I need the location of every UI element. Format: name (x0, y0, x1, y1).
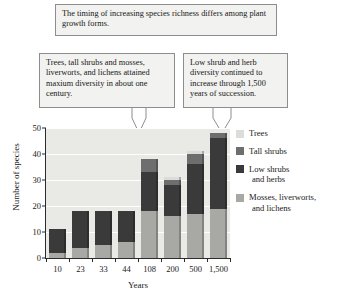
stacked-bar (95, 211, 112, 258)
stacked-bar (49, 229, 66, 258)
legend-item: Mosses, liverworts,and lichens (236, 192, 347, 213)
legend-swatch (236, 194, 244, 202)
x-tick-mark (207, 258, 208, 262)
bar-segment (72, 248, 89, 258)
bar-segment (118, 242, 135, 258)
bar-segment (141, 211, 158, 258)
bar-segment (187, 164, 204, 213)
legend-label: Tall shrubs (249, 146, 287, 156)
bar-segment (95, 245, 112, 258)
bar-slot (184, 128, 207, 258)
y-tick-label: 50 (17, 124, 41, 133)
x-tick-label: 1,500 (207, 264, 230, 278)
x-tick-mark (161, 258, 162, 262)
bar-segment (210, 138, 227, 208)
bar-segment (141, 172, 158, 211)
bar-slot (207, 128, 230, 258)
y-axis-ticks: 01020304050 (20, 120, 46, 266)
legend-item: Tall shrubs (236, 146, 347, 156)
stacked-bar (164, 177, 181, 258)
callout-left-text: Trees, tall shrubs and mosses, liverwort… (46, 58, 168, 100)
y-tick-label: 20 (17, 202, 41, 211)
bar-slot (46, 128, 69, 258)
y-tick-label: 10 (17, 228, 41, 237)
bar-slot (115, 128, 138, 258)
callout-right: Low shrub and herb diversity continued t… (183, 53, 288, 108)
stacked-bar (141, 159, 158, 258)
bar-segment (164, 216, 181, 258)
legend-label-line2: and herbs (249, 174, 289, 184)
legend-swatch (236, 147, 244, 155)
x-tick-mark (230, 258, 231, 262)
legend-item: Low shrubsand herbs (236, 164, 347, 185)
stacked-bar-chart: Number of species 01020304050 1023334410… (0, 120, 240, 308)
legend-swatch (236, 165, 244, 173)
x-tick-label: 44 (115, 264, 138, 278)
x-tick-label: 33 (92, 264, 115, 278)
bar-segment (187, 214, 204, 258)
stacked-bar (187, 151, 204, 258)
stacked-bar (72, 211, 89, 258)
bar-segment (210, 209, 227, 258)
legend-item: Trees (236, 128, 347, 138)
x-tick-mark (46, 258, 47, 262)
callout-left: Trees, tall shrubs and mosses, liverwort… (39, 53, 175, 108)
legend-label-line2: and lichens (249, 203, 316, 213)
bar-slot (138, 128, 161, 258)
x-tick-label: 23 (69, 264, 92, 278)
legend-swatch (236, 130, 244, 138)
x-tick-label: 10 (46, 264, 69, 278)
bar-segment (187, 154, 204, 164)
y-tick-label: 40 (17, 150, 41, 159)
y-tick-label: 30 (17, 176, 41, 185)
callout-top-text: The timing of increasing species richnes… (62, 9, 270, 30)
x-axis-label: Years (46, 280, 230, 290)
x-axis-tick-labels: 102333441082005001,500 (46, 264, 230, 278)
bar-segment (118, 211, 135, 242)
stacked-bar (118, 211, 135, 258)
bar-slot (161, 128, 184, 258)
x-tick-label: 108 (138, 264, 161, 278)
x-tick-mark (184, 258, 185, 262)
figure-root: The timing of increasing species richnes… (0, 0, 347, 308)
x-tick-mark (92, 258, 93, 262)
bar-group (46, 128, 230, 258)
bar-segment (141, 159, 158, 172)
bar-segment (164, 185, 181, 216)
bar-segment (49, 229, 66, 252)
x-tick-label: 200 (161, 264, 184, 278)
x-tick-label: 500 (184, 264, 207, 278)
bar-slot (92, 128, 115, 258)
callout-top: The timing of increasing species richnes… (55, 4, 277, 36)
x-tick-mark (115, 258, 116, 262)
stacked-bar (210, 133, 227, 258)
x-axis-tickmarks (46, 258, 230, 263)
bar-slot (69, 128, 92, 258)
y-tick-label: 0 (17, 254, 41, 263)
x-tick-mark (69, 258, 70, 262)
x-tick-mark (138, 258, 139, 262)
legend-label: Trees (249, 128, 268, 138)
callout-right-text: Low shrub and herb diversity continued t… (190, 58, 281, 100)
legend-label: Mosses, liverworts,and lichens (249, 192, 316, 213)
bar-segment (72, 211, 89, 247)
chart-legend: TreesTall shrubsLow shrubsand herbsMosse… (236, 128, 347, 220)
bar-segment (95, 211, 112, 245)
legend-label: Low shrubsand herbs (249, 164, 289, 185)
